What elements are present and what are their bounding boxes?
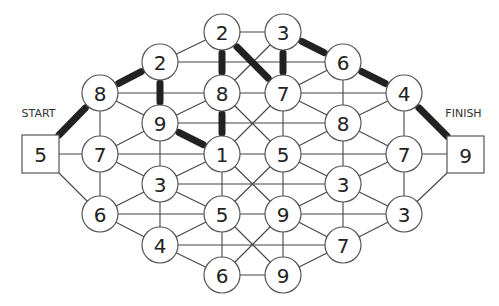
node-value: 7 xyxy=(398,143,411,167)
node-value: 7 xyxy=(277,82,290,106)
graph-node: 3 xyxy=(265,14,301,50)
highlighted-path-segment xyxy=(179,132,203,144)
node-value: 3 xyxy=(398,203,411,227)
highlighted-path-segment xyxy=(302,41,324,52)
graph-canvas: 232688749871573365934769 5 START 9 FINIS… xyxy=(0,0,499,306)
graph-node: 5 xyxy=(265,136,301,172)
graph-node: 9 xyxy=(265,196,301,232)
graph-node: 3 xyxy=(325,166,361,202)
graph-node: 6 xyxy=(325,44,361,80)
highlighted-path-segment xyxy=(59,108,85,135)
node-value: 2 xyxy=(216,21,229,45)
node-value: 8 xyxy=(216,82,229,106)
node-value: 9 xyxy=(154,112,167,136)
graph-node: 7 xyxy=(325,227,361,263)
node-value: 3 xyxy=(277,21,290,45)
node-value: 5 xyxy=(277,143,290,167)
graph-node: 2 xyxy=(204,14,240,50)
node-value: 1 xyxy=(216,143,229,167)
graph-node: 3 xyxy=(142,166,178,202)
node-value: 7 xyxy=(337,234,350,258)
graph-node: 7 xyxy=(386,136,422,172)
graph-node: 8 xyxy=(325,105,361,141)
finish-label: FINISH xyxy=(445,107,481,120)
start-node: 5 START xyxy=(22,107,59,173)
graph-node: 7 xyxy=(265,75,301,111)
node-value: 7 xyxy=(94,143,107,167)
node-value: 3 xyxy=(154,173,167,197)
finish-value: 9 xyxy=(459,144,472,168)
finish-node: 9 FINISH xyxy=(445,107,484,173)
node-value: 4 xyxy=(154,234,167,258)
graph-node: 7 xyxy=(82,136,118,172)
node-value: 5 xyxy=(216,203,229,227)
node-value: 9 xyxy=(277,203,290,227)
node-value: 6 xyxy=(94,203,107,227)
graph-node: 9 xyxy=(265,257,301,293)
graph-node: 1 xyxy=(204,136,240,172)
graph-node: 4 xyxy=(142,227,178,263)
graph-node: 9 xyxy=(142,105,178,141)
graph-node: 8 xyxy=(82,75,118,111)
graph-node: 4 xyxy=(386,75,422,111)
start-value: 5 xyxy=(34,143,47,167)
route-puzzle-diagram: 232688749871573365934769 5 START 9 FINIS… xyxy=(0,0,499,306)
node-value: 8 xyxy=(94,82,107,106)
highlighted-path-segment xyxy=(419,108,447,136)
node-value: 6 xyxy=(337,51,350,75)
graph-node: 3 xyxy=(386,196,422,232)
node-value: 2 xyxy=(154,51,167,75)
highlighted-path-segment xyxy=(362,72,386,84)
graph-node: 6 xyxy=(204,257,240,293)
node-value: 4 xyxy=(398,82,411,106)
graph-node: 5 xyxy=(204,196,240,232)
node-value: 8 xyxy=(337,112,350,136)
graph-node: 8 xyxy=(204,75,240,111)
node-value: 9 xyxy=(277,264,290,288)
node-value: 3 xyxy=(337,173,350,197)
highlighted-path-segment xyxy=(119,72,142,84)
graph-node: 6 xyxy=(82,196,118,232)
graph-node: 2 xyxy=(142,44,178,80)
node-value: 6 xyxy=(216,264,229,288)
start-label: START xyxy=(22,107,56,120)
